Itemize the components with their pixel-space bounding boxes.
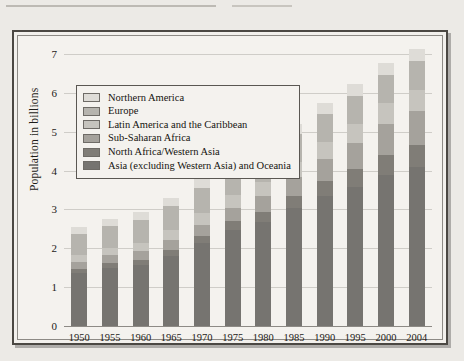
x-tick-label-2004: 2004 — [406, 332, 427, 343]
bar-segment[interactable] — [255, 222, 271, 326]
bar-segment[interactable] — [286, 196, 302, 208]
bar-group-1990[interactable]: 1990 — [317, 54, 333, 326]
bar-segment[interactable] — [71, 273, 87, 326]
bar-segment[interactable] — [317, 196, 333, 326]
bar-segment[interactable] — [347, 169, 363, 186]
bar-segment[interactable] — [286, 177, 302, 196]
bar-segment[interactable] — [347, 187, 363, 326]
y-tick-label-0: 0 — [52, 320, 58, 332]
bar-segment[interactable] — [102, 226, 118, 248]
bar-segment[interactable] — [255, 196, 271, 212]
legend-item[interactable]: Europe — [83, 105, 291, 119]
bar-group-2004[interactable]: 2004 — [409, 54, 425, 326]
bar-segment[interactable] — [409, 111, 425, 145]
bar-segment[interactable] — [317, 103, 333, 114]
legend-item-label: Europe — [108, 106, 138, 117]
bar-segment[interactable] — [347, 124, 363, 143]
bar-segment[interactable] — [317, 181, 333, 196]
bar-segment[interactable] — [194, 236, 210, 243]
bar-group-2000[interactable]: 2000 — [378, 54, 394, 326]
x-tick-label-1995: 1995 — [345, 332, 366, 343]
legend-swatch-icon — [83, 134, 100, 143]
bar-segment[interactable] — [133, 212, 149, 220]
page-top-rule — [6, 5, 216, 7]
legend-item[interactable]: Asia (excluding Western Asia) and Oceani… — [83, 159, 291, 173]
bar-segment[interactable] — [194, 213, 210, 224]
bar-segment[interactable] — [378, 103, 394, 123]
figure-inner-border: Population in billions 01234567 19501955… — [17, 35, 443, 340]
y-tick-label-4: 4 — [52, 165, 58, 177]
x-tick-label-1975: 1975 — [222, 332, 243, 343]
y-tick-label-2: 2 — [52, 242, 58, 254]
bar-segment[interactable] — [163, 250, 179, 256]
bar-segment[interactable] — [163, 198, 179, 206]
bar-segment[interactable] — [102, 268, 118, 326]
bar-segment[interactable] — [133, 243, 149, 252]
bar-segment[interactable] — [71, 234, 87, 255]
bar-segment[interactable] — [194, 243, 210, 326]
bar-segment[interactable] — [133, 260, 149, 265]
bar-segment[interactable] — [409, 49, 425, 62]
legend-item-label: North Africa/Western Asia — [108, 147, 220, 158]
legend-swatch-icon — [83, 161, 100, 170]
bar-segment[interactable] — [163, 206, 179, 230]
bar-segment[interactable] — [378, 75, 394, 103]
x-tick-label-1985: 1985 — [283, 332, 304, 343]
bar-segment[interactable] — [317, 142, 333, 159]
bar-segment[interactable] — [133, 265, 149, 326]
bar-segment[interactable] — [378, 175, 394, 326]
bar-segment[interactable] — [102, 255, 118, 263]
bar-segment[interactable] — [378, 124, 394, 155]
bar-segment[interactable] — [409, 167, 425, 326]
bar-segment[interactable] — [194, 188, 210, 214]
y-tick-label-5: 5 — [52, 126, 58, 138]
bar-segment[interactable] — [163, 256, 179, 326]
bar-segment[interactable] — [194, 179, 210, 188]
bar-segment[interactable] — [225, 221, 241, 230]
bar-segment[interactable] — [133, 251, 149, 260]
bar-segment[interactable] — [163, 240, 179, 250]
bar-segment[interactable] — [255, 212, 271, 222]
legend-swatch-icon — [83, 120, 100, 129]
bar-segment[interactable] — [71, 269, 87, 273]
bar-segment[interactable] — [255, 182, 271, 196]
legend-item[interactable]: Northern America — [83, 91, 291, 105]
x-tick-label-1950: 1950 — [69, 332, 90, 343]
bar-group-1995[interactable]: 1995 — [347, 54, 363, 326]
bar-segment[interactable] — [194, 225, 210, 236]
bar-segment[interactable] — [102, 248, 118, 255]
gridline-7 — [64, 54, 432, 55]
legend-swatch-icon — [83, 93, 100, 102]
y-axis-title: Population in billions — [28, 88, 40, 191]
bar-segment[interactable] — [102, 263, 118, 268]
bar-segment[interactable] — [347, 96, 363, 124]
legend-item[interactable]: Sub-Saharan Africa — [83, 132, 291, 146]
legend-item-label: Northern America — [108, 93, 184, 104]
bar-segment[interactable] — [225, 208, 241, 221]
legend-item-label: Latin America and the Caribbean — [108, 120, 247, 131]
x-tick-label-1960: 1960 — [130, 332, 151, 343]
bar-segment[interactable] — [225, 230, 241, 326]
bar-segment[interactable] — [317, 114, 333, 142]
bar-segment[interactable] — [347, 84, 363, 96]
x-tick-label-1980: 1980 — [253, 332, 274, 343]
bar-segment[interactable] — [409, 145, 425, 167]
bar-segment[interactable] — [409, 90, 425, 111]
bar-segment[interactable] — [133, 220, 149, 243]
bar-segment[interactable] — [378, 155, 394, 175]
bar-segment[interactable] — [71, 227, 87, 234]
bar-segment[interactable] — [378, 63, 394, 75]
bar-segment[interactable] — [317, 159, 333, 181]
bar-segment[interactable] — [102, 219, 118, 226]
legend-item-label: Asia (excluding Western Asia) and Oceani… — [108, 161, 291, 172]
bar-segment[interactable] — [71, 262, 87, 269]
bar-segment[interactable] — [286, 208, 302, 326]
bar-segment[interactable] — [225, 195, 241, 207]
bar-segment[interactable] — [163, 230, 179, 240]
legend-item[interactable]: Latin America and the Caribbean — [83, 118, 291, 132]
bar-segment[interactable] — [409, 61, 425, 89]
bar-segment[interactable] — [347, 143, 363, 169]
gridline-1 — [64, 287, 432, 288]
legend-item[interactable]: North Africa/Western Asia — [83, 145, 291, 159]
bar-segment[interactable] — [71, 255, 87, 262]
